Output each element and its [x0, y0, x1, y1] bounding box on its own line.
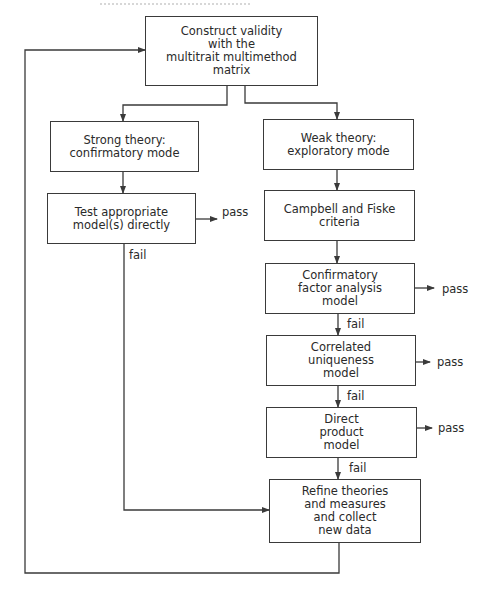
node-text-line: criteria [319, 216, 360, 229]
node-text-line: model [323, 367, 359, 380]
node-strong: Strong theory:confirmatory mode [50, 121, 199, 172]
node-text-line: model [322, 295, 358, 308]
node-test: Test appropriatemodel(s) directly [47, 193, 196, 244]
edge-label-fail-test: fail [129, 249, 147, 262]
edge-label-fail-correlated: fail [347, 390, 365, 403]
node-text-line: model [324, 439, 360, 452]
node-direct: Directproductmodel [266, 407, 417, 458]
node-weak: Weak theory:exploratory mode [263, 119, 414, 170]
node-construct: Construct validitywith themultitrait mul… [145, 16, 318, 86]
edge-label-pass-direct: pass [438, 422, 464, 435]
edge-label-fail-direct: fail [349, 462, 367, 475]
node-refine: Refine theoriesand measuresand collectne… [269, 479, 421, 543]
edge-label-fail-cfa: fail [347, 318, 365, 331]
connector-construct-to-weak [245, 86, 337, 119]
node-text-line: Campbell and Fiske [284, 203, 396, 216]
edge-label-pass-cfa: pass [442, 283, 468, 296]
node-correlated: Correlateduniquenessmodel [266, 335, 416, 386]
node-text-line: exploratory mode [287, 145, 389, 158]
connector-test-fail-to-refine [124, 244, 269, 510]
node-text-line: Test appropriate [75, 206, 168, 219]
edge-label-pass-test: pass [222, 206, 248, 219]
node-text-line: Strong theory: [83, 134, 165, 147]
node-text-line: confirmatory mode [69, 147, 179, 160]
node-campbell: Campbell and Fiskecriteria [264, 190, 415, 241]
node-text-line: Weak theory: [301, 132, 377, 145]
node-cfa: Confirmatoryfactor analysismodel [265, 263, 415, 314]
node-text-line: model(s) directly [73, 219, 170, 232]
edge-label-pass-correlated: pass [437, 356, 463, 369]
node-text-line: matrix [213, 64, 251, 77]
connector-construct-to-strong [123, 86, 227, 121]
node-text-line: new data [318, 524, 371, 537]
